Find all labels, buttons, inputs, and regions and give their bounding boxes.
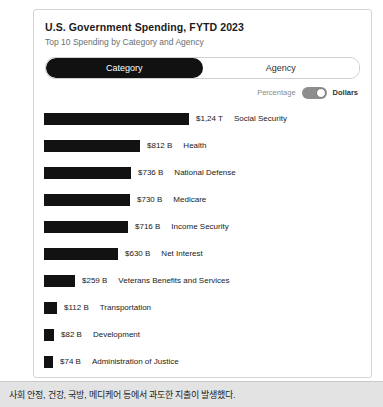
chart-row[interactable]: $1,24 TSocial Security (34, 105, 371, 132)
spending-card: U.S. Government Spending, FYTD 2023 Top … (33, 9, 372, 378)
chart-row[interactable]: $716 BIncome Security (34, 213, 371, 240)
bar-value-label: $82 B (61, 330, 82, 339)
bar[interactable] (44, 194, 130, 206)
bar-category-label: Development (93, 330, 140, 339)
bar-category-label: Medicare (173, 195, 206, 204)
bar-category-label: Income Security (171, 222, 228, 231)
page-subtitle: Top 10 Spending by Category and Agency (45, 36, 371, 48)
chart-row[interactable]: $112 BTransportation (34, 294, 371, 321)
page-title: U.S. Government Spending, FYTD 2023 (45, 21, 371, 34)
bar-value-label: $259 B (82, 276, 107, 285)
view-segmented-control[interactable]: Category Agency (45, 57, 360, 79)
bar[interactable] (44, 302, 57, 314)
tab-category[interactable]: Category (46, 58, 203, 78)
bar-value-label: $1,24 T (196, 114, 223, 123)
chart-row[interactable]: $630 BNet Interest (34, 240, 371, 267)
chart-row[interactable]: $730 BMedicare (34, 186, 371, 213)
bar-category-label: Transportation (100, 303, 151, 312)
bar[interactable] (44, 248, 118, 260)
bar-category-label: Health (183, 141, 206, 150)
chart-row[interactable]: $812 BHealth (34, 132, 371, 159)
bar[interactable] (44, 113, 189, 125)
bar[interactable] (44, 167, 131, 179)
chart-row[interactable]: $74 BAdministration of Justice (34, 348, 371, 375)
caption-text: 사회 안정, 건강, 국방, 메디케어 등에서 과도한 지출이 발생했다. (0, 388, 235, 401)
bar-category-label: Net Interest (161, 249, 202, 258)
bar-category-label: Veterans Benefits and Services (118, 276, 229, 285)
bar-value-label: $736 B (138, 168, 163, 177)
view-segmented-control-wrapper: Category Agency (45, 57, 360, 79)
bar-category-label: Administration of Justice (92, 357, 179, 366)
tab-agency[interactable]: Agency (203, 58, 360, 78)
bar-value-label: $74 B (60, 357, 81, 366)
unit-toggle-switch[interactable] (302, 87, 327, 99)
bar-value-label: $630 B (125, 249, 150, 258)
chart-row[interactable]: $82 BDevelopment (34, 321, 371, 348)
spending-bar-chart: $1,24 TSocial Security$812 BHealth$736 B… (34, 105, 371, 375)
bar[interactable] (44, 329, 54, 341)
bar-value-label: $730 B (137, 195, 162, 204)
card-header: U.S. Government Spending, FYTD 2023 Top … (34, 10, 371, 48)
bar-value-label: $112 B (64, 303, 89, 312)
bar[interactable] (44, 140, 140, 152)
unit-toggle-row: Percentage Dollars (34, 86, 358, 99)
bar-category-label: Social Security (234, 114, 287, 123)
chart-row[interactable]: $259 BVeterans Benefits and Services (34, 267, 371, 294)
caption-bar: 사회 안정, 건강, 국방, 메디케어 등에서 과도한 지출이 발생했다. (0, 381, 383, 407)
bar[interactable] (44, 356, 53, 368)
unit-label-dollars[interactable]: Dollars (333, 88, 358, 97)
bar-value-label: $716 B (135, 222, 160, 231)
bar-value-label: $812 B (147, 141, 172, 150)
toggle-knob-icon (316, 88, 326, 98)
unit-label-percentage[interactable]: Percentage (257, 88, 295, 97)
bar[interactable] (44, 275, 75, 287)
chart-row[interactable]: $736 BNational Defense (34, 159, 371, 186)
bar-category-label: National Defense (174, 168, 235, 177)
bar[interactable] (44, 221, 128, 233)
